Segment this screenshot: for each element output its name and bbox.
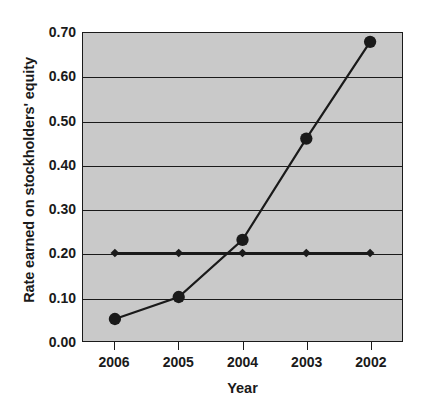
- x-axis-tick-label: 2003: [291, 354, 322, 370]
- y-axis-tick-labels: 0.000.100.200.300.400.500.600.70: [30, 32, 76, 342]
- y-axis-tick-label: 0.60: [30, 68, 76, 84]
- data-point-circle: [173, 291, 185, 303]
- x-axis-tick-mark: [307, 342, 308, 350]
- data-point-diamond: [302, 249, 311, 258]
- x-axis-tick-marks: [82, 342, 403, 354]
- x-axis-title: Year: [82, 380, 403, 396]
- data-point-diamond: [238, 249, 247, 258]
- x-axis-tick-label: 2002: [355, 354, 386, 370]
- data-point-diamond: [111, 249, 120, 258]
- y-axis-tick-label: 0.40: [30, 157, 76, 173]
- data-point-circle: [236, 234, 248, 246]
- x-axis-tick-labels: 20062005200420032002: [82, 354, 403, 374]
- data-point-circle: [300, 132, 312, 144]
- y-axis-tick-label: 0.20: [30, 245, 76, 261]
- y-axis-tick-label: 0.70: [30, 24, 76, 40]
- data-point-diamond: [366, 249, 375, 258]
- x-axis-tick-label: 2005: [163, 354, 194, 370]
- chart-figure: Rate earned on stockholders' equity 0.00…: [0, 0, 436, 413]
- x-axis-tick-mark: [114, 342, 115, 350]
- x-axis-tick-label: 2004: [227, 354, 258, 370]
- plot-area: [82, 32, 403, 342]
- x-axis-tick-mark: [243, 342, 244, 350]
- series-line-0: [115, 42, 370, 319]
- data-point-diamond: [174, 249, 183, 258]
- x-axis-tick-label: 2006: [99, 354, 130, 370]
- x-axis-tick-mark: [178, 342, 179, 350]
- y-axis-tick-label: 0.50: [30, 113, 76, 129]
- data-point-circle: [109, 313, 121, 325]
- plot-svg: [83, 33, 402, 341]
- y-axis-tick-label: 0.30: [30, 201, 76, 217]
- y-axis-tick-label: 0.10: [30, 290, 76, 306]
- data-point-circle: [364, 36, 376, 48]
- y-axis-tick-label: 0.00: [30, 334, 76, 350]
- x-axis-tick-mark: [371, 342, 372, 350]
